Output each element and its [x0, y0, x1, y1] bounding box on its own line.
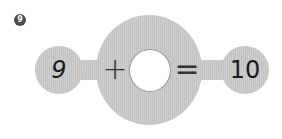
answer-blank-circle[interactable] — [129, 49, 171, 92]
problem-number-badge: 9 — [14, 14, 26, 26]
left-operand: 9 — [35, 56, 83, 84]
equals-sign: = — [172, 53, 202, 85]
result-value: 10 — [221, 56, 269, 84]
plus-operator: + — [100, 53, 130, 85]
